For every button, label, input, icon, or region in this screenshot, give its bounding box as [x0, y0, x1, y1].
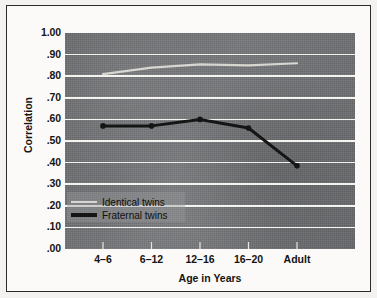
data-point-marker [197, 117, 203, 123]
data-point-marker [246, 125, 252, 131]
plot-area: Identical twins Fraternal twins [65, 33, 355, 249]
series-identical-twins [103, 63, 297, 74]
data-point-marker [149, 123, 155, 129]
series-line [103, 119, 297, 165]
legend-swatch-identical-icon [71, 201, 97, 203]
x-axis-tick-label: 4–6 [94, 253, 112, 265]
legend-item-identical: Identical twins [71, 195, 165, 209]
legend-label-fraternal: Fraternal twins [102, 210, 168, 221]
figure-container: Identical twins Fraternal twins 1.00.90.… [0, 0, 377, 298]
x-axis-tick-label: Adult [284, 253, 311, 265]
y-axis-tick-label: .20 [15, 199, 61, 211]
legend: Identical twins Fraternal twins [67, 192, 185, 222]
series-fraternal-twins [100, 117, 300, 169]
x-axis-tick-labels: 4–66–1212–1616–20Adult [65, 253, 355, 269]
y-axis-tick-label: .00 [15, 242, 61, 254]
legend-label-identical: Identical twins [102, 197, 165, 208]
y-axis-tick-label: 1.00 [15, 26, 61, 38]
data-point-marker [100, 123, 106, 129]
y-axis-tick-label: .30 [15, 177, 61, 189]
x-axis-tick-label: 6–12 [140, 253, 163, 265]
x-axis-title: Age in Years [65, 272, 355, 284]
x-axis-tick-label: 12–16 [185, 253, 214, 265]
figure-frame: Identical twins Fraternal twins 1.00.90.… [6, 5, 371, 292]
y-axis-tick-labels: 1.00.90.80.70.60.50.40.30.20.10.00 [11, 33, 61, 249]
y-axis-title: Correlation [22, 75, 34, 175]
legend-item-fraternal: Fraternal twins [71, 208, 168, 222]
legend-swatch-fraternal-icon [71, 213, 97, 216]
y-axis-tick-label: .10 [15, 220, 61, 232]
y-axis-tick-label: .90 [15, 48, 61, 60]
data-point-marker [294, 163, 300, 169]
x-axis-tick-label: 16–20 [234, 253, 263, 265]
series-line [103, 63, 297, 74]
